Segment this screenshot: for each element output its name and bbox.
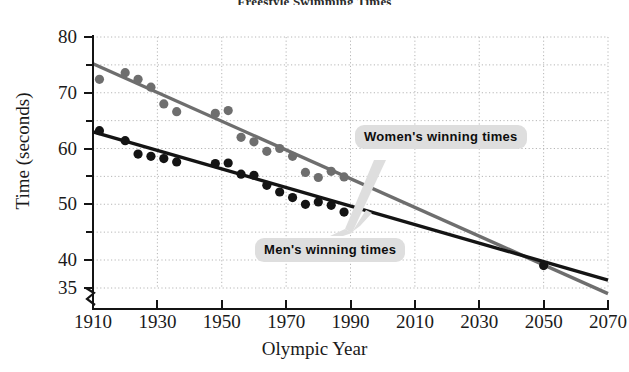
chart-container: Freestyle Swimming Times 807060504035 19… bbox=[0, 0, 629, 372]
callout-tails bbox=[0, 0, 629, 372]
callout-women-label: Women's winning times bbox=[355, 125, 527, 149]
callout-men-label: Men's winning times bbox=[255, 238, 405, 262]
